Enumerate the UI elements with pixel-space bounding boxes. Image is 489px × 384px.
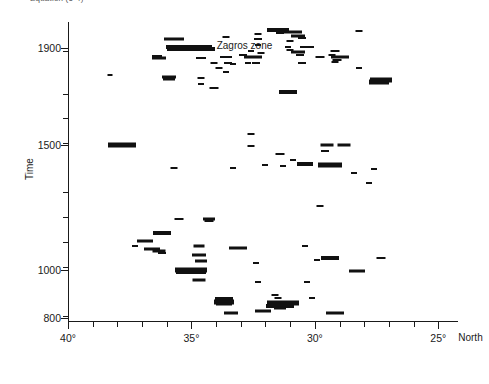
data-point-mark: [195, 260, 207, 263]
data-point-mark: [224, 311, 238, 314]
x-axis-minor-tick: [142, 321, 143, 327]
data-point-mark: [255, 33, 262, 35]
data-point-mark: [108, 143, 136, 148]
x-axis-tick: [191, 321, 192, 329]
data-point-mark: [366, 182, 372, 184]
data-point-mark: [216, 303, 232, 306]
data-point-mark: [198, 77, 205, 79]
data-point-mark: [371, 168, 377, 170]
data-point-mark: [321, 256, 339, 260]
x-axis-minor-tick: [167, 321, 168, 327]
data-point-mark: [316, 205, 323, 207]
data-point-mark: [163, 77, 175, 80]
figure-root: Equation (6-4) 190015001000800 40°35°30°…: [0, 0, 489, 384]
data-point-mark: [158, 252, 166, 254]
data-point-mark: [215, 67, 222, 69]
y-axis-title: Time: [24, 158, 35, 180]
data-point-mark: [302, 245, 308, 247]
data-point-mark: [326, 311, 344, 314]
data-point-mark: [192, 279, 205, 282]
x-axis-tick-label: 25°: [430, 332, 446, 344]
x-axis-tick-label: 40°: [60, 332, 76, 344]
data-point-mark: [107, 74, 112, 76]
data-point-mark: [309, 297, 315, 299]
data-point-mark: [255, 281, 261, 283]
x-axis-minor-tick: [414, 321, 415, 327]
x-axis-tick: [438, 321, 439, 329]
data-point-mark: [175, 218, 184, 220]
data-point-mark: [192, 254, 206, 257]
data-point-mark: [230, 167, 236, 169]
data-point-mark: [153, 231, 171, 235]
data-point-mark: [349, 270, 365, 273]
data-point-mark: [274, 297, 281, 299]
data-point-mark: [132, 245, 138, 247]
data-point-mark: [171, 167, 178, 169]
x-axis-line: 40°35°30°25°North: [68, 321, 458, 322]
y-axis-tick-label: 1500: [38, 139, 61, 151]
data-point-mark: [356, 30, 363, 32]
data-point-mark: [252, 62, 260, 64]
data-point-mark: [276, 153, 285, 155]
data-point-mark: [377, 257, 386, 259]
data-point-mark: [297, 162, 313, 166]
x-axis-title: Zagros zone: [0, 40, 489, 51]
data-point-mark: [193, 245, 204, 248]
data-point-mark: [176, 270, 206, 274]
plot-area: 190015001000800: [68, 22, 458, 322]
data-point-mark: [280, 165, 286, 167]
x-axis-minor-tick: [265, 321, 266, 327]
x-axis-tick-label: 30°: [307, 332, 323, 344]
x-axis-minor-tick: [241, 321, 242, 327]
x-axis-minor-tick: [216, 321, 217, 327]
data-point-mark: [255, 309, 271, 312]
data-point-mark: [274, 306, 286, 309]
data-point-mark: [356, 67, 362, 69]
data-point-mark: [223, 71, 229, 73]
data-point-mark: [257, 52, 264, 54]
x-axis-minor-tick: [117, 321, 118, 327]
data-point-mark: [351, 172, 357, 174]
data-point-mark: [304, 281, 310, 283]
x-axis-tick: [68, 321, 69, 329]
data-point-mark: [318, 163, 342, 168]
data-point-mark: [224, 62, 232, 64]
data-point-mark: [338, 143, 351, 146]
y-axis-tick-label: 1000: [38, 264, 61, 276]
data-point-mark: [369, 79, 389, 84]
data-point-mark: [198, 83, 204, 85]
x-axis-minor-tick: [290, 321, 291, 327]
data-point-mark: [298, 62, 306, 64]
data-point-mark: [247, 133, 254, 135]
data-point-mark: [137, 239, 153, 242]
data-point-mark: [331, 61, 338, 63]
data-point-mark: [321, 144, 334, 147]
y-axis-line: [68, 22, 69, 322]
data-point-mark: [296, 54, 304, 56]
x-axis-minor-tick: [364, 321, 365, 327]
data-point-mark: [279, 90, 297, 94]
top-caption: Equation (6-4): [30, 0, 84, 3]
data-point-mark: [245, 62, 251, 64]
data-point-mark: [220, 56, 232, 58]
data-point-mark: [210, 62, 217, 64]
data-point-mark: [272, 294, 279, 296]
data-point-mark: [321, 150, 329, 152]
data-point-mark: [247, 145, 254, 147]
data-point-mark: [204, 220, 213, 222]
data-point-mark: [209, 87, 218, 89]
data-point-mark: [298, 37, 306, 39]
x-axis-minor-tick: [93, 321, 94, 327]
data-point-mark: [229, 246, 247, 249]
data-point-mark: [315, 56, 324, 58]
data-point-mark: [290, 159, 296, 161]
data-point-mark: [314, 259, 320, 261]
data-point-mark: [284, 31, 302, 34]
x-axis-tick-label: 35°: [183, 332, 199, 344]
data-point-mark: [253, 262, 259, 264]
x-axis-minor-tick: [340, 321, 341, 327]
data-point-mark: [152, 57, 166, 60]
y-axis-tick-label: 800: [43, 312, 61, 324]
data-point-mark: [196, 57, 206, 59]
x-axis-minor-tick: [389, 321, 390, 327]
